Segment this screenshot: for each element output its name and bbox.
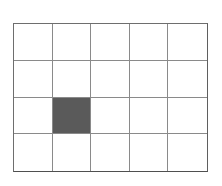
grid-cell xyxy=(130,24,169,61)
grid-cell xyxy=(91,24,130,61)
grid-cell-filled xyxy=(53,98,92,135)
grid-cell xyxy=(53,134,92,171)
grid-cell xyxy=(130,98,169,135)
grid-cell xyxy=(168,134,207,171)
grid-cell xyxy=(168,24,207,61)
grid-cell xyxy=(53,24,92,61)
grid-cell xyxy=(91,61,130,98)
grid-cell xyxy=(130,134,169,171)
grid xyxy=(13,23,208,172)
grid-cell xyxy=(130,61,169,98)
grid-cell xyxy=(14,134,53,171)
grid-cell xyxy=(91,134,130,171)
grid-cell xyxy=(168,98,207,135)
figure-canvas xyxy=(0,0,222,186)
grid-cell xyxy=(53,61,92,98)
grid-cell xyxy=(91,98,130,135)
grid-cell xyxy=(168,61,207,98)
grid-cell xyxy=(14,98,53,135)
grid-cell xyxy=(14,61,53,98)
grid-cell xyxy=(14,24,53,61)
